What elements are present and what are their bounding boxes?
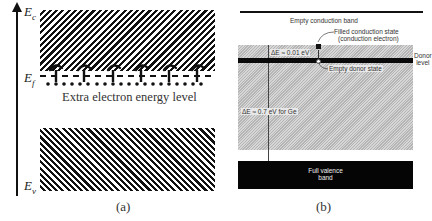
donor-level-label: Donor level — [414, 52, 432, 66]
full-valence-band-label: Full valence band — [238, 167, 413, 181]
delta-e-small-label: ΔE ≈ 0.01 eV — [270, 49, 310, 56]
conduction-band-edge-line — [240, 11, 423, 13]
delta-e-gap-label: ΔE ≈ 0.7 eV for Ge — [241, 108, 298, 115]
empty-donor-state-label: Empty donor state — [328, 65, 383, 72]
valence-band-hatched — [40, 128, 215, 191]
excitation-arrow — [318, 50, 319, 59]
caption-b: (b) — [316, 199, 331, 215]
valence-edge-label: Ev — [24, 178, 36, 196]
filled-state-leader-line — [312, 30, 336, 44]
energy-axis — [16, 8, 18, 196]
conduction-electron-marker — [316, 44, 321, 49]
caption-a: (a) — [116, 199, 130, 215]
extra-electron-level-label: Extra electron energy level — [62, 90, 197, 105]
fermi-level-label: Ef — [24, 70, 34, 88]
donor-electrons-row — [40, 60, 215, 90]
conduction-edge-label: Ec — [24, 4, 36, 22]
energy-axis-arrow-icon — [12, 2, 22, 12]
empty-conduction-band-label: Empty conduction band — [290, 17, 358, 24]
delta-e-small-arrow — [268, 45, 269, 58]
filled-conduction-state-label: Filled conduction state (conduction elec… — [334, 28, 399, 42]
